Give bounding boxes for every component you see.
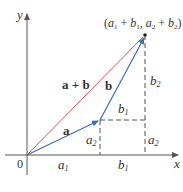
b1-horizontal-label: b1 xyxy=(118,101,129,117)
a1-axis-label: a1 xyxy=(58,157,69,173)
endpoint-label: (a1 + b1, a2 + b2) xyxy=(104,16,182,31)
a2-left-label: a2 xyxy=(86,132,97,148)
x-axis-label: x xyxy=(173,156,180,171)
origin-label: 0 xyxy=(17,157,23,171)
y-axis-label: y xyxy=(15,7,23,22)
b2-label: b2 xyxy=(150,73,161,89)
endpoint-dot xyxy=(143,33,147,37)
a2-right-label: a2 xyxy=(148,132,159,148)
vector-b-label: b xyxy=(105,78,112,93)
vector-a-label: a xyxy=(63,123,70,138)
b1-axis-label: b1 xyxy=(118,157,129,173)
vector-sum-line xyxy=(27,37,143,155)
vector-addition-diagram: y x 0 (a1 + b1, a2 + b2) a + b b a a1 b1… xyxy=(0,0,183,192)
vector-sum-label: a + b xyxy=(62,77,90,92)
